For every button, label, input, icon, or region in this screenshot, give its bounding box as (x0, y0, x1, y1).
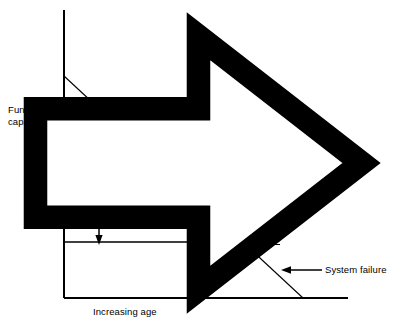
right-arrow-outline-icon (0, 0, 397, 326)
chart-figure: Functional capacity Reserve capacity Lev… (0, 0, 397, 326)
